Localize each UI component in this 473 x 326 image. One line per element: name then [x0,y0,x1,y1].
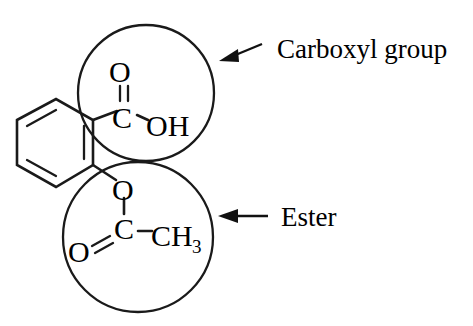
ester-group: O C O CH 3 [68,173,202,268]
carboxyl-arrow-head-icon [219,49,239,62]
atom-label-ester-carbon: C [114,212,134,245]
ester-annotation-label: Ester [281,202,336,232]
carboxyl-group: O C OH [109,55,189,142]
benzene-ring-outline [17,99,93,187]
chemical-structure-diagram: O C OH O C O CH 3 Carboxyl group [0,0,473,326]
atom-label-carboxyl-hydroxyl: OH [146,109,189,142]
benzene-ring [17,99,93,187]
atom-label-ester-ether-oxygen: O [112,173,134,206]
carboxyl-annotation-label: Carboxyl group [277,34,447,64]
atom-label-carboxyl-oxygen: O [109,55,131,88]
annotation-carboxyl: Carboxyl group [219,34,447,64]
annotation-ester: Ester [218,202,336,232]
atom-label-carboxyl-carbon: C [112,101,132,134]
atom-label-ester-methyl: CH [151,219,193,252]
atom-label-ester-carbonyl-oxygen: O [68,235,90,268]
ester-arrow-head-icon [218,209,238,223]
ester-double-bond-stroke-2 [95,243,113,253]
figure-canvas: O C OH O C O CH 3 Carboxyl group [0,0,473,326]
atom-label-ester-methyl-subscript: 3 [192,236,202,257]
ester-double-bond-stroke-1 [92,236,110,246]
